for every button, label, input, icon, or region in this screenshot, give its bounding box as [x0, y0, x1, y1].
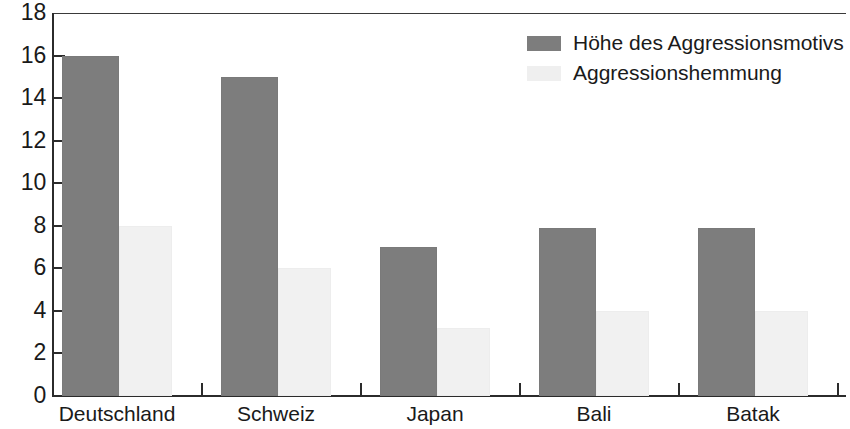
chart-legend: Höhe des Aggressionsmotivs Aggressionshe… — [527, 28, 844, 88]
x-axis-tick-4 — [837, 383, 839, 396]
y-axis-label-16: 16 — [4, 44, 46, 67]
x-axis-tick-3 — [678, 383, 680, 396]
bar-batak-aggressionsmotiv — [698, 228, 755, 396]
x-axis-label-deutschland: Deutschland — [27, 402, 207, 426]
legend-item-0: Höhe des Aggressionsmotivs — [527, 28, 844, 58]
bar-japan-aggressionsmotiv — [380, 247, 437, 396]
x-axis-label-japan: Japan — [345, 402, 525, 426]
legend-swatch-icon-dark — [527, 36, 561, 51]
bar-japan-aggressionshemmung — [437, 328, 490, 396]
bar-schweiz-aggressionsmotiv — [221, 77, 278, 396]
y-axis-label-4: 4 — [4, 299, 46, 322]
bar-batak-aggressionshemmung — [755, 311, 808, 396]
x-axis-tick-1 — [360, 383, 362, 396]
legend-label-1: Aggressionshemmung — [573, 61, 782, 85]
y-axis-line — [52, 13, 54, 397]
chart-top-border — [52, 13, 846, 14]
y-axis-label-2: 2 — [4, 341, 46, 364]
y-axis-label-12: 12 — [4, 129, 46, 152]
x-axis-label-batak: Batak — [663, 402, 843, 426]
bar-deutschland-aggressionsmotiv — [62, 56, 119, 396]
x-axis-tick-0 — [201, 383, 203, 396]
x-axis-tick-2 — [519, 383, 521, 396]
legend-item-1: Aggressionshemmung — [527, 58, 844, 88]
bar-deutschland-aggressionshemmung — [119, 226, 172, 396]
y-axis-label-10: 10 — [4, 171, 46, 194]
legend-label-0: Höhe des Aggressionsmotivs — [573, 31, 844, 55]
y-axis-label-8: 8 — [4, 214, 46, 237]
bar-schweiz-aggressionshemmung — [278, 268, 331, 396]
y-axis-label-14: 14 — [4, 86, 46, 109]
legend-swatch-icon-light — [527, 66, 561, 81]
y-axis-label-6: 6 — [4, 256, 46, 279]
bar-bali-aggressionshemmung — [596, 311, 649, 396]
x-axis-label-bali: Bali — [504, 402, 684, 426]
x-axis-label-schweiz: Schweiz — [186, 402, 366, 426]
bar-bali-aggressionsmotiv — [539, 228, 596, 396]
bar-chart: 024681012141618 DeutschlandSchweizJapanB… — [0, 0, 850, 429]
y-axis-labels: 024681012141618 — [0, 0, 46, 429]
y-axis-label-18: 18 — [4, 1, 46, 24]
